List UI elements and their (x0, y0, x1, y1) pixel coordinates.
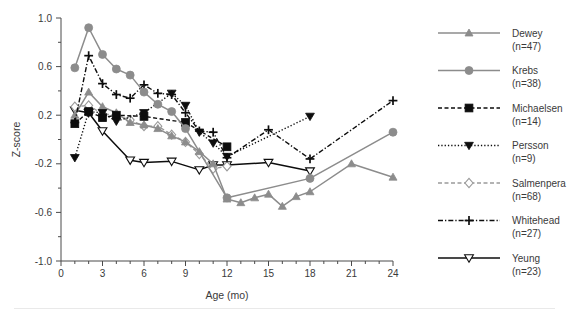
series-krebs-marker (306, 174, 314, 182)
legend-n-michaelsen: (n=14) (512, 116, 541, 127)
series-michaelsen (71, 108, 231, 151)
series-krebs-marker (140, 88, 148, 96)
series-group (70, 24, 397, 210)
series-whitehead-marker (84, 51, 93, 60)
series-whitehead-marker (153, 89, 162, 98)
series-dewey-marker (265, 190, 273, 197)
legend-label-salmenpera: Salmenpera (512, 178, 566, 189)
x-axis-tick-label: 3 (100, 268, 106, 279)
series-line-dewey (75, 92, 393, 206)
legend-label-dewey: Dewey (512, 28, 543, 39)
x-axis-title: Age (mo) (205, 289, 248, 301)
y-axis-tick-label: 0.6 (38, 61, 52, 72)
y-axis-tick-label: -0.6 (35, 207, 53, 218)
series-krebs-marker (99, 50, 107, 58)
legend-n-dewey: (n=47) (512, 41, 541, 52)
series-whitehead-marker (389, 96, 398, 105)
x-axis-tick-label: 15 (263, 268, 275, 279)
series-whitehead-marker (306, 155, 315, 164)
series-krebs-marker (71, 64, 79, 72)
legend: Dewey(n=47)Krebs(n=38)Michaelsen(n=14)Pe… (438, 28, 566, 277)
page-artifact-line (14, 308, 555, 309)
y-axis-tick-label: 0.2 (38, 110, 52, 121)
legend-krebs-marker (465, 67, 473, 75)
series-whitehead-marker (264, 125, 273, 134)
x-axis-tick-label: 0 (58, 268, 64, 279)
series-krebs-marker (182, 125, 190, 133)
series-krebs-marker (126, 71, 134, 79)
legend-item-michaelsen[interactable]: Michaelsen(n=14) (438, 103, 563, 127)
series-krebs-marker (223, 194, 231, 202)
legend-item-krebs[interactable]: Krebs(n=38) (438, 65, 541, 89)
legend-n-yeung: (n=23) (512, 266, 541, 277)
series-whitehead-marker (112, 90, 121, 99)
series-krebs-marker (85, 24, 93, 32)
series-persson-marker (70, 155, 79, 162)
x-axis-tick-label: 9 (183, 268, 189, 279)
legend-label-krebs: Krebs (512, 65, 538, 76)
series-whitehead-marker (209, 128, 218, 137)
legend-item-persson[interactable]: Persson(n=9) (438, 140, 549, 164)
legend-item-salmenpera[interactable]: Salmenpera(n=68) (438, 178, 566, 202)
legend-label-michaelsen: Michaelsen (512, 103, 563, 114)
series-yeung-marker (195, 167, 204, 174)
legend-label-whitehead: Whitehead (512, 215, 560, 226)
series-line-persson (75, 93, 310, 157)
series-dewey-marker (348, 160, 356, 167)
legend-salmenpera-marker (465, 178, 473, 187)
series-line-krebs (75, 28, 393, 198)
legend-n-salmenpera: (n=68) (512, 191, 541, 202)
series-line-michaelsen (75, 112, 227, 147)
series-persson-marker (112, 118, 121, 125)
series-dewey-marker (85, 88, 93, 95)
z-score-vs-age-line-chart: -1.0-0.6-0.20.20.61.003691215182124Age (… (0, 0, 569, 315)
series-krebs-marker (168, 108, 176, 116)
y-axis-tick-label: 1.0 (38, 13, 52, 24)
legend-item-dewey[interactable]: Dewey(n=47) (438, 28, 543, 52)
legend-item-whitehead[interactable]: Whitehead(n=27) (438, 215, 560, 239)
series-dewey-marker (306, 188, 314, 195)
series-krebs-marker (112, 65, 120, 73)
y-axis-tick-label: -0.2 (35, 158, 53, 169)
x-axis-tick-label: 21 (346, 268, 358, 279)
chart-container: -1.0-0.6-0.20.20.61.003691215182124Age (… (0, 0, 569, 315)
x-axis-tick-label: 12 (221, 268, 233, 279)
y-axis-tick-label: -1.0 (35, 256, 53, 267)
series-persson-marker (306, 113, 315, 120)
legend-label-persson: Persson (512, 140, 549, 151)
x-axis-tick-label: 6 (141, 268, 147, 279)
legend-n-whitehead: (n=27) (512, 228, 541, 239)
y-axis-title: Z-score (10, 122, 22, 158)
legend-n-krebs: (n=38) (512, 78, 541, 89)
legend-michaelsen-marker (465, 104, 473, 112)
series-michaelsen-marker (223, 143, 231, 151)
legend-item-yeung[interactable]: Yeung(n=23) (438, 253, 541, 277)
legend-n-persson: (n=9) (512, 153, 536, 164)
x-axis-tick-label: 18 (304, 268, 316, 279)
legend-label-yeung: Yeung (512, 253, 540, 264)
series-whitehead-marker (195, 127, 204, 136)
series-krebs-marker (389, 128, 397, 136)
series-krebs-marker (154, 100, 162, 108)
legend-whitehead-marker (465, 216, 474, 225)
x-axis-tick-label: 24 (387, 268, 399, 279)
